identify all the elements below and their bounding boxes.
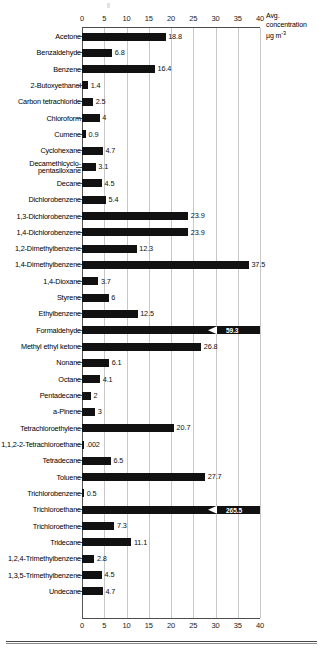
chart-figure: Avg. concentration µg m-3 05101520253035…	[0, 0, 323, 651]
category-label: Trichloroethane	[0, 506, 81, 514]
category-label: a-Pinene	[0, 408, 81, 416]
bar-value-label: 3.1	[98, 163, 108, 171]
category-label: Tridecane	[0, 539, 81, 547]
category-label: Decane	[0, 180, 81, 188]
bar	[82, 424, 174, 432]
x-tick-label: 30	[206, 621, 226, 631]
footer-divider-secondary	[6, 643, 317, 644]
bar	[82, 392, 91, 400]
x-tick-label: 20	[161, 14, 181, 24]
bar-row: 1,2-Dimethylbenzene12.3	[0, 243, 323, 259]
x-tick-label: 10	[117, 14, 137, 24]
bar-row: 1,4-Dichlorobenzene23.9	[0, 227, 323, 243]
x-axis-ticks-top: 0510152025303540	[0, 14, 323, 28]
bar-value-label: 4.5	[105, 180, 115, 188]
bar-row: Tetrachloroethylene20.7	[0, 423, 323, 439]
bar	[82, 49, 112, 57]
bar-row: Trichlorobenzene0.5	[0, 488, 323, 504]
bar-value-label: 59.3	[226, 327, 238, 335]
top-artifact	[107, 3, 110, 8]
bar	[82, 277, 98, 285]
category-label: Styrene	[0, 294, 81, 302]
bar-row: Decamethlcyclo-pentasiloxane3.1	[0, 162, 323, 178]
x-tick-label: 40	[250, 621, 270, 631]
bar-value-label: 5.4	[109, 196, 119, 204]
x-tick-label: 0	[72, 621, 92, 631]
bar	[82, 294, 109, 302]
bar	[82, 538, 131, 546]
bar-value-label: 23.9	[191, 229, 205, 237]
x-tick-label: 35	[228, 621, 248, 631]
bar-row: Ethylbenzene12.5	[0, 308, 323, 324]
category-label: 1,2,4-Trimethylbenzene	[0, 555, 81, 563]
bar	[82, 114, 100, 122]
bar-value-label: 4.7	[105, 588, 115, 596]
category-label: Ethylbenzene	[0, 310, 81, 318]
bar-row: Methyl ethyl ketone26.8	[0, 341, 323, 357]
bar-row: 1,4-Dioxane3.7	[0, 276, 323, 292]
bar-row: Nonane6.1	[0, 357, 323, 373]
category-label: Benzaldehyde	[0, 49, 81, 57]
category-label: 1,3-Dichlorobenzene	[0, 213, 81, 221]
bar-row: Dichlorobenzene5.4	[0, 194, 323, 210]
bar-value-label: 37.5	[251, 261, 265, 269]
bar-row: Toluene27.7	[0, 472, 323, 488]
x-tick-label: 0	[72, 14, 92, 24]
category-label: Decamethlcyclo-pentasiloxane	[0, 160, 81, 175]
bar-value-label: 2.5	[96, 98, 106, 106]
category-label: Benzene	[0, 66, 81, 74]
bar-value-label: .002	[86, 441, 100, 449]
bar-value-label: 12.5	[140, 310, 154, 318]
bar-value-label: 3	[98, 408, 102, 416]
category-label: 1,1,2-2-Tetrachloroethane	[0, 441, 81, 449]
bar-row: Octane4.1	[0, 374, 323, 390]
bar-row: Styrene6	[0, 292, 323, 308]
footer-divider	[6, 641, 317, 642]
bar-row: 1,4-Dimethylbenzene37.5	[0, 259, 323, 275]
bar-value-label: 26.8	[204, 343, 218, 351]
x-tick-label: 25	[183, 14, 203, 24]
bar-value-label: 12.3	[139, 245, 153, 253]
category-label: Tetrachloroethylene	[0, 425, 81, 433]
bar-value-label: 4.1	[103, 376, 113, 384]
x-tick-label: 5	[94, 621, 114, 631]
bar	[82, 228, 188, 236]
x-tick-label: 20	[161, 621, 181, 631]
category-label: Acetone	[0, 33, 81, 41]
bar	[82, 473, 205, 481]
bar-row: a-Pinene3	[0, 406, 323, 422]
bar-row: Benzene16.4	[0, 64, 323, 80]
bar	[82, 179, 102, 187]
bar-row: Pentadecane2	[0, 390, 323, 406]
bar	[82, 98, 93, 106]
category-label: Dichlorobenzene	[0, 196, 81, 204]
category-label: 1,4-Dichlorobenzene	[0, 229, 81, 237]
bar	[82, 65, 155, 73]
bar-row: Chloroform4	[0, 113, 323, 129]
bar-value-label: 6	[111, 294, 115, 302]
bar-value-label: 11.1	[134, 539, 147, 547]
bar-value-label: 0.9	[89, 131, 99, 139]
bar	[82, 555, 94, 563]
bar-value-label: 6.5	[113, 457, 123, 465]
bar-row: Trichloroethene7.3	[0, 521, 323, 537]
bar	[82, 587, 103, 595]
bar-value-label: 4	[102, 114, 106, 122]
bar-row: Cumene0.9	[0, 129, 323, 145]
bar	[82, 457, 111, 465]
bar	[82, 81, 88, 89]
category-label: Nonane	[0, 359, 81, 367]
x-axis-ticks-bottom: 0510152025303540	[0, 621, 323, 635]
bar-value-label: 2	[93, 392, 97, 400]
bar-value-label: 4.7	[105, 147, 115, 155]
category-label: Octane	[0, 376, 81, 384]
x-tick-label: 15	[139, 621, 159, 631]
x-tick-label: 5	[94, 14, 114, 24]
bar-row: 1,1,2-2-Tetrachloroethane.002	[0, 439, 323, 455]
bar	[82, 375, 100, 383]
bar-row: Tetradecane6.5	[0, 455, 323, 471]
category-label: Cyclohexane	[0, 147, 81, 155]
x-tick-label: 35	[228, 14, 248, 24]
bar-value-label: 23.9	[191, 212, 205, 220]
category-label: Pentadecane	[0, 392, 81, 400]
